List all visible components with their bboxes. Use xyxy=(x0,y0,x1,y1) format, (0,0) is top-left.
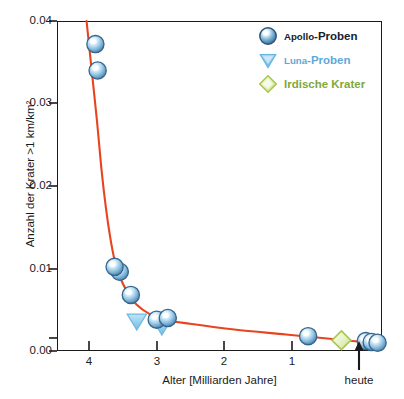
apollo-sample-marker xyxy=(106,258,123,275)
apollo-sample-marker xyxy=(369,334,386,351)
crater-rate-chart: 0.04 0.03 0.02 0.01 0.00 4 3 2 1 heute A… xyxy=(0,0,404,399)
legend-item-irdische-krater[interactable]: Irdische Krater xyxy=(258,72,388,96)
terrestrial-crater-marker xyxy=(332,331,351,350)
legend-label-luna-prefix: Luna xyxy=(284,55,307,66)
chart-legend: Apollo-Proben Luna-Proben Irdische Krate… xyxy=(258,24,388,96)
sphere-icon xyxy=(258,26,278,46)
apollo-sample-marker xyxy=(122,286,139,303)
apollo-sample-marker xyxy=(87,36,104,53)
legend-label-luna: Luna-Proben xyxy=(284,54,351,66)
triangle-down-icon xyxy=(258,50,278,70)
apollo-sample-marker xyxy=(89,62,106,79)
legend-label-apollo-suffix: -Proben xyxy=(314,30,357,42)
legend-item-apollo[interactable]: Apollo-Proben xyxy=(258,24,388,48)
legend-label-apollo-prefix: Apollo xyxy=(284,31,314,42)
apollo-sample-marker xyxy=(159,309,176,326)
legend-label-apollo: Apollo-Proben xyxy=(284,30,358,42)
luna-sample-marker xyxy=(127,314,146,330)
legend-label-irdische-krater: Irdische Krater xyxy=(284,78,365,90)
x-axis-ticks xyxy=(89,341,292,351)
apollo-sample-marker xyxy=(300,328,317,345)
legend-label-luna-suffix: -Proben xyxy=(307,54,350,66)
diamond-icon xyxy=(258,74,278,94)
legend-item-luna[interactable]: Luna-Proben xyxy=(258,48,388,72)
y-axis-ticks xyxy=(49,21,57,351)
